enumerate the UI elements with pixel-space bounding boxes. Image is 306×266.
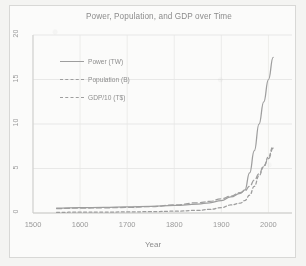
legend-item-gdp: GDP/10 (T$) — [60, 88, 130, 106]
x-tick-label: 2000 — [253, 220, 283, 229]
chart-legend: Power (TW) Population (B) GDP/10 (T$) — [60, 52, 130, 106]
x-tick-label: 1500 — [18, 220, 48, 229]
legend-swatch-dashed-icon — [60, 79, 84, 80]
legend-label-gdp: GDP/10 (T$) — [88, 94, 125, 101]
legend-label-power: Power (TW) — [88, 58, 123, 65]
legend-swatch-solid-icon — [60, 61, 84, 62]
legend-item-population: Population (B) — [60, 70, 130, 88]
x-tick-label: 1900 — [206, 220, 236, 229]
x-axis-tick-labels: 150016001700180019002000 — [0, 0, 306, 266]
x-tick-label: 1800 — [159, 220, 189, 229]
legend-label-population: Population (B) — [88, 76, 130, 83]
x-axis-title: Year — [0, 240, 306, 249]
legend-item-power: Power (TW) — [60, 52, 130, 70]
chart-figure: Power, Population, and GDP over Time 051… — [0, 0, 306, 266]
x-tick-label: 1600 — [65, 220, 95, 229]
x-tick-label: 1700 — [112, 220, 142, 229]
legend-swatch-short-dashed-icon — [60, 97, 84, 98]
